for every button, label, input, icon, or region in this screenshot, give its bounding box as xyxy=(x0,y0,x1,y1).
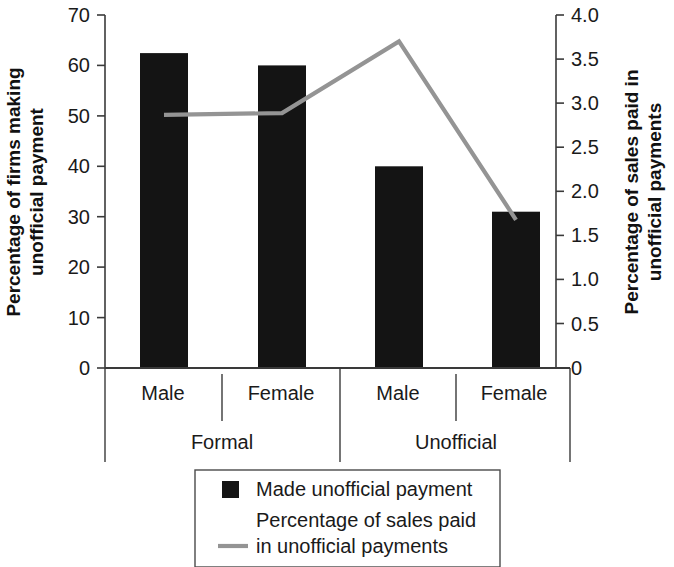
right-axis-title-line2: unofficial payments xyxy=(644,103,665,281)
bar-series xyxy=(140,53,540,368)
right-tick-label-2-5: 2.5 xyxy=(571,136,599,158)
right-tick-label-3-0: 3.0 xyxy=(571,92,599,114)
xaxis-category-formal-male: Male xyxy=(141,382,184,404)
combo-chart: 70 60 50 40 30 20 10 0 Percentage of fir… xyxy=(0,0,674,567)
left-tick-label-0: 0 xyxy=(79,357,90,379)
line-series xyxy=(164,41,516,219)
right-tick-label-1-0: 1.0 xyxy=(571,268,599,290)
x-axis: Male Female Male Female Formal Unofficia… xyxy=(105,368,570,462)
left-tick-label-60: 60 xyxy=(68,54,90,76)
legend-label-made-unofficial-payment[interactable]: Made unofficial payment xyxy=(256,478,473,500)
legend: Made unofficial payment Percentage of sa… xyxy=(195,470,500,567)
bar-unofficial-male[interactable] xyxy=(375,166,423,368)
xaxis-category-formal-female: Female xyxy=(248,382,315,404)
left-tick-label-50: 50 xyxy=(68,105,90,127)
right-tick-label-4-0: 4.0 xyxy=(571,4,599,26)
xaxis-group-formal: Formal xyxy=(191,431,253,453)
right-axis: 4.0 3.5 3.0 2.5 2.0 1.5 1.0 0.5 0 Percen… xyxy=(556,4,665,379)
xaxis-group-unofficial: Unofficial xyxy=(415,431,497,453)
legend-swatch-bar-icon xyxy=(222,481,239,498)
left-tick-label-20: 20 xyxy=(68,256,90,278)
right-tick-label-0-5: 0.5 xyxy=(571,313,599,335)
right-tick-label-3-5: 3.5 xyxy=(571,48,599,70)
bar-unofficial-female[interactable] xyxy=(492,212,540,368)
left-axis-title-line2: unofficial payment xyxy=(26,107,47,276)
sales-paid-line[interactable] xyxy=(164,41,516,219)
left-tick-label-40: 40 xyxy=(68,155,90,177)
legend-label-sales-paid-line2[interactable]: in unofficial payments xyxy=(256,535,448,557)
right-tick-label-1-5: 1.5 xyxy=(571,224,599,246)
left-axis: 70 60 50 40 30 20 10 0 Percentage of fir… xyxy=(3,4,105,379)
left-tick-label-30: 30 xyxy=(68,206,90,228)
left-tick-label-70: 70 xyxy=(68,4,90,26)
xaxis-category-unofficial-female: Female xyxy=(481,382,548,404)
right-tick-label-0: 0 xyxy=(571,357,582,379)
right-axis-title-line1: Percentage of sales paid in xyxy=(621,70,642,315)
xaxis-category-unofficial-male: Male xyxy=(376,382,419,404)
right-tick-label-2-0: 2.0 xyxy=(571,180,599,202)
chart-container: 70 60 50 40 30 20 10 0 Percentage of fir… xyxy=(0,0,674,567)
bar-formal-male[interactable] xyxy=(140,53,188,368)
legend-label-sales-paid-line1[interactable]: Percentage of sales paid xyxy=(256,509,476,531)
left-axis-title-line1: Percentage of firms making xyxy=(3,67,24,316)
left-tick-label-10: 10 xyxy=(68,307,90,329)
